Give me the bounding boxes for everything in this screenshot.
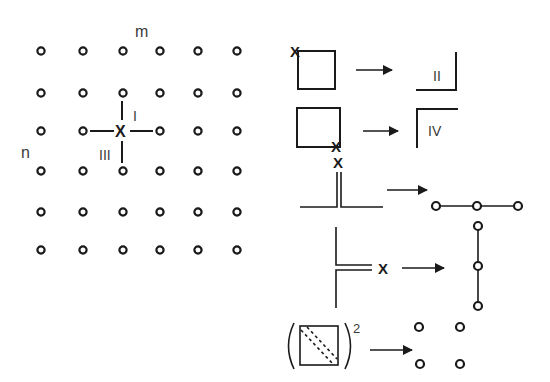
axis-label-n: n xyxy=(21,144,30,161)
lattice-site xyxy=(194,208,201,215)
rule-2-label: IV xyxy=(428,123,442,139)
lattice-site xyxy=(37,47,44,54)
rule-2: X IV xyxy=(297,108,458,155)
lattice-site xyxy=(194,246,201,253)
rule-2-x-mark: X xyxy=(331,138,341,155)
rule-5-node xyxy=(456,360,464,368)
rule-1-x-mark: X xyxy=(290,43,300,60)
lattice-site xyxy=(79,246,86,253)
lattice-site xyxy=(194,167,201,174)
lattice-site xyxy=(233,246,240,253)
lattice-rule-diagram: m n X I III X II X IV X xyxy=(0,0,550,382)
lattice-site xyxy=(119,246,126,253)
lattice-site xyxy=(156,246,163,253)
rule-4-x-mark: X xyxy=(378,260,388,277)
rule-5-dashed-diagonal xyxy=(301,330,333,364)
rule-4-chain-node xyxy=(474,262,482,270)
rule-5-exponent: 2 xyxy=(353,321,360,336)
lattice-dots xyxy=(37,47,240,253)
rule-3-x-mark: X xyxy=(333,154,343,171)
rule-3-chain-node xyxy=(432,202,440,210)
rule-4-chain-node xyxy=(474,302,482,310)
lattice-site xyxy=(37,167,44,174)
rule-5-square xyxy=(300,326,338,365)
site-x-mark: X xyxy=(115,123,126,140)
rule-3-left-arm xyxy=(300,172,337,207)
rule-3: X xyxy=(300,154,522,210)
lattice-site xyxy=(194,89,201,96)
rule-3-chain-node xyxy=(514,202,522,210)
lattice-site xyxy=(233,208,240,215)
rule-3-chain-node xyxy=(473,202,481,210)
rule-4-chain-node xyxy=(474,222,482,230)
lattice-site xyxy=(37,246,44,253)
lattice-site xyxy=(79,127,86,134)
rule-1-label: II xyxy=(433,68,441,84)
lattice-site xyxy=(233,89,240,96)
rule-1-square xyxy=(298,51,335,89)
lattice-site xyxy=(156,167,163,174)
lattice-site xyxy=(79,208,86,215)
rule-1: X II xyxy=(290,43,456,90)
lattice-site xyxy=(156,89,163,96)
rule-5-left-paren xyxy=(289,323,295,369)
lattice-site xyxy=(194,47,201,54)
lattice-site xyxy=(233,47,240,54)
rule-4: X xyxy=(336,222,482,310)
rule-5-node xyxy=(416,360,424,368)
quadrant-label-I: I xyxy=(133,108,137,124)
axis-label-m: m xyxy=(135,23,148,40)
lattice-site xyxy=(37,208,44,215)
lattice-site xyxy=(233,167,240,174)
lattice-site xyxy=(79,167,86,174)
lattice-site xyxy=(119,47,126,54)
rule-5: 2 xyxy=(289,321,465,369)
rule-5-node xyxy=(415,323,423,331)
lattice-site xyxy=(119,167,126,174)
rule-4-upper-arm xyxy=(336,227,372,265)
lattice-panel: m n X I III xyxy=(21,23,241,254)
rule-5-node xyxy=(456,323,464,331)
quadrant-label-III: III xyxy=(99,147,111,163)
rule-3-right-arm xyxy=(341,172,383,207)
lattice-site xyxy=(233,127,240,134)
lattice-site xyxy=(156,208,163,215)
lattice-site xyxy=(156,127,163,134)
lattice-site xyxy=(37,89,44,96)
lattice-site xyxy=(79,89,86,96)
lattice-site xyxy=(156,47,163,54)
lattice-site xyxy=(37,127,44,134)
rule-5-right-paren xyxy=(345,323,351,369)
rule-5-dashed-diagonal xyxy=(307,327,337,359)
lattice-site xyxy=(194,127,201,134)
lattice-site xyxy=(119,208,126,215)
lattice-site xyxy=(119,89,126,96)
lattice-site xyxy=(79,47,86,54)
rule-4-lower-arm xyxy=(336,270,372,308)
